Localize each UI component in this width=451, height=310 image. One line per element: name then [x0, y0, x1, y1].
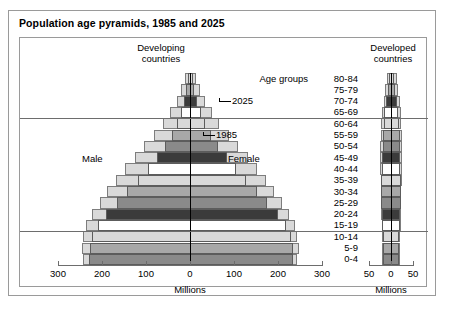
callout-leader-line: [219, 98, 220, 102]
pyramid-row: [358, 141, 428, 152]
pyramid-row: [20, 130, 358, 141]
female-label: Female: [228, 153, 260, 164]
age-group-label: 55-59: [334, 129, 358, 140]
age-group-label: 5-9: [344, 242, 358, 253]
axis-tick: [190, 261, 191, 266]
pyramid-row: [20, 197, 358, 208]
age-group-label: 15-19: [334, 219, 358, 230]
bar-1985: [148, 163, 236, 174]
axis-tick: [278, 261, 279, 266]
pyramid-row: [358, 175, 428, 186]
axis-tick-label: 0: [170, 268, 210, 279]
pyramid-row: [358, 197, 428, 208]
chart-title: Population age pyramids, 1985 and 2025: [19, 17, 225, 29]
age-group-label: 45-49: [334, 152, 358, 163]
age-groups-title: Age groups: [252, 73, 308, 84]
axis-tick-label: 200: [258, 268, 298, 279]
bar-1985: [157, 152, 227, 163]
male-label: Male: [82, 153, 103, 164]
axis-caption-developing: Millions: [58, 284, 322, 295]
age-group-label: 20-24: [334, 208, 358, 219]
reference-line: [20, 231, 428, 232]
pyramid-row: [20, 96, 358, 107]
center-axis-line: [190, 73, 191, 265]
bar-1985: [165, 141, 218, 152]
pyramid-row: [20, 186, 358, 197]
age-group-label: 40-44: [334, 163, 358, 174]
axis-caption-developed: Millions: [369, 284, 413, 295]
pyramid-row: [358, 130, 428, 141]
axis-tick: [413, 261, 414, 266]
pyramid-row: [20, 254, 358, 265]
pyramid-row: [358, 220, 428, 231]
axis-tick: [102, 261, 103, 266]
bar-1985: [106, 209, 277, 220]
callout-leader-line: [204, 135, 215, 136]
pyramid-row: [358, 107, 428, 118]
pyramid-row: [20, 152, 358, 163]
pyramid-row: [20, 231, 358, 242]
pyramid-row: [358, 209, 428, 220]
bar-1985: [98, 220, 286, 231]
age-group-label: 75-79: [334, 84, 358, 95]
age-group-label: 10-14: [334, 231, 358, 242]
axis-tick-label: 100: [214, 268, 254, 279]
axis-tick: [58, 261, 59, 266]
pyramid-row: [20, 243, 358, 254]
callout-2025: 2025: [232, 95, 253, 106]
age-group-label: 80-84: [334, 73, 358, 84]
axis-tick: [391, 261, 392, 266]
axis-tick-label: 200: [82, 268, 122, 279]
bar-1985: [127, 186, 257, 197]
pyramid-row: [358, 73, 428, 84]
age-group-label: 70-74: [334, 95, 358, 106]
axis-tick-label: 300: [38, 268, 78, 279]
pyramid-row: [20, 175, 358, 186]
pyramid-row: [358, 84, 428, 95]
pyramid-row: [358, 96, 428, 107]
age-group-label: 25-29: [334, 197, 358, 208]
pyramid-row: [20, 107, 358, 118]
bar-1985: [92, 231, 290, 242]
age-group-label: 30-34: [334, 186, 358, 197]
bar-1985: [138, 175, 247, 186]
callout-leader-line: [220, 101, 231, 102]
age-group-label: 0-4: [344, 253, 358, 264]
axis-tick: [369, 261, 370, 266]
center-axis-line: [391, 73, 392, 265]
pyramid-row: [20, 84, 358, 95]
pyramid-row: [358, 152, 428, 163]
pyramid-row: [358, 186, 428, 197]
callout-leader-line: [203, 132, 204, 136]
figure-container: Population age pyramids, 1985 and 2025 D…: [8, 10, 436, 296]
pyramid-row: [358, 243, 428, 254]
plot-frame: Developing countries Male Female 2025 19…: [19, 37, 427, 287]
panel-developed: Developed countries: [358, 38, 428, 288]
pyramid-row: [20, 209, 358, 220]
axis-tick-label: 50: [393, 268, 433, 279]
age-group-label: 35-39: [334, 174, 358, 185]
age-group-label: 50-54: [334, 140, 358, 151]
pyramid-row: [358, 231, 428, 242]
axis-tick: [234, 261, 235, 266]
bar-1985: [90, 243, 293, 254]
pyramid-row: [20, 220, 358, 231]
bar-1985: [89, 254, 294, 265]
pyramid-row: [20, 118, 358, 129]
age-group-axis: 80-8475-7970-7465-6960-6455-5950-5445-49…: [312, 38, 358, 288]
pyramid-developed: [358, 38, 428, 288]
bar-1985: [177, 118, 206, 129]
axis-tick-label: 100: [126, 268, 166, 279]
pyramid-row: [20, 141, 358, 152]
pyramid-row: [358, 118, 428, 129]
pyramid-row: [358, 163, 428, 174]
age-group-label: 60-64: [334, 118, 358, 129]
callout-1985: 1985: [216, 129, 237, 140]
axis-tick-label: 300: [302, 268, 342, 279]
pyramid-row: [20, 163, 358, 174]
bar-1985: [117, 197, 268, 208]
axis-tick: [146, 261, 147, 266]
reference-line: [20, 118, 428, 119]
axis-tick: [322, 261, 323, 266]
age-group-label: 65-69: [334, 106, 358, 117]
